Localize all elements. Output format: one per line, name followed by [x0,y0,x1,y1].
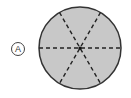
center-point [78,46,81,49]
divided-circle-diagram [0,0,131,98]
